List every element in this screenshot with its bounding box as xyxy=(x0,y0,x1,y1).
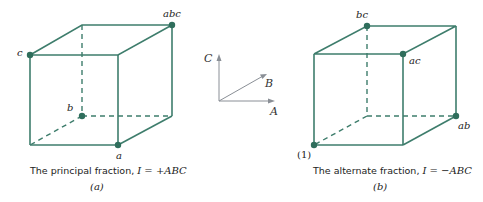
vertex-ab xyxy=(453,113,459,119)
vertex-ac xyxy=(400,51,406,57)
vertex-b xyxy=(79,113,85,119)
label-c: c xyxy=(17,47,23,58)
label-ac: ac xyxy=(409,55,421,66)
vertex-c xyxy=(27,52,33,58)
label-b: b xyxy=(67,102,73,113)
sublabel-b: (b) xyxy=(373,181,387,192)
cube-top-face xyxy=(30,25,172,55)
label-one: (1) xyxy=(297,149,311,160)
caption-alternate-fraction: The alternate fraction, I = −ABC xyxy=(312,165,472,176)
caption-text: The alternate fraction, xyxy=(312,165,422,176)
cube-edge xyxy=(403,116,456,145)
vertex-abc xyxy=(169,22,175,28)
factorial-design-diagram: c abc b a The principal fraction, I = +A… xyxy=(0,0,483,202)
cube-alternate-fraction: bc ac ab (1) The alternate fraction, I =… xyxy=(297,9,472,192)
arrow-up-icon xyxy=(217,54,222,61)
vertex-bc xyxy=(364,23,370,29)
cube-top-face xyxy=(314,26,456,54)
caption-formula: I = −ABC xyxy=(421,165,472,176)
caption-text: The principal fraction, xyxy=(29,165,137,176)
label-a: a xyxy=(116,150,122,161)
hidden-edge xyxy=(314,116,367,145)
axes-indicator: C B A xyxy=(204,52,278,118)
label-ab: ab xyxy=(458,120,470,131)
caption-principal-fraction: The principal fraction, I = +ABC xyxy=(29,165,187,176)
axis-label-b: B xyxy=(264,77,273,90)
label-bc: bc xyxy=(356,9,368,20)
hidden-edge xyxy=(30,116,82,145)
cube-principal-fraction: c abc b a The principal fraction, I = +A… xyxy=(17,8,187,192)
axis-label-c: C xyxy=(204,52,213,65)
arrow-right-icon xyxy=(268,99,275,104)
cube-edge xyxy=(118,116,172,145)
label-abc: abc xyxy=(163,8,181,19)
axis-label-a: A xyxy=(269,105,278,118)
axis-b xyxy=(219,76,263,101)
sublabel-a: (a) xyxy=(90,181,104,192)
caption-formula: I = +ABC xyxy=(136,165,187,176)
vertex-one xyxy=(311,142,317,148)
vertex-a xyxy=(115,142,121,148)
